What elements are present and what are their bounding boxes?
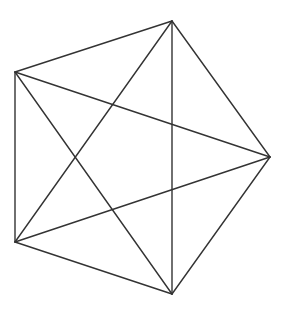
diagonal-AC (15, 21, 172, 242)
side-EA (172, 21, 270, 157)
pentagon-svg (0, 0, 288, 309)
diagonal-CE (15, 157, 270, 242)
diagonal-BE (15, 72, 270, 157)
diagonal-BD (15, 72, 172, 294)
side-DE (172, 157, 270, 294)
pentagon-diagram (0, 0, 288, 309)
side-AB (15, 21, 172, 72)
side-CD (15, 242, 172, 294)
